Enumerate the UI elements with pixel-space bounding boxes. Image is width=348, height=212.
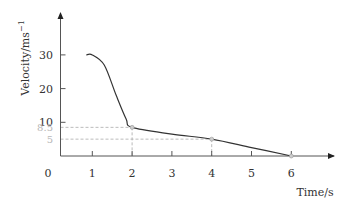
velocity-time-chart: 12345610203008.55 Time/s Velocity/ms−1 xyxy=(0,0,348,212)
reference-value-label: 8.5 xyxy=(37,122,53,133)
reference-point xyxy=(210,137,214,141)
y-axis-title: Velocity/ms−1 xyxy=(17,20,32,96)
velocity-curve xyxy=(86,54,291,156)
x-tick-label: 2 xyxy=(129,167,136,180)
axes xyxy=(61,13,335,156)
x-tick-label: 3 xyxy=(168,167,175,180)
tick-labels: 12345610203008.55 xyxy=(37,49,295,180)
tick-marks xyxy=(61,55,292,156)
origin-label: 0 xyxy=(45,167,52,180)
y-tick-label: 20 xyxy=(39,83,53,96)
x-axis-title: Time/s xyxy=(296,186,334,199)
y-tick-label: 30 xyxy=(39,49,53,62)
reference-point xyxy=(289,154,293,158)
x-tick-label: 5 xyxy=(248,167,255,180)
reference-lines xyxy=(61,127,212,156)
x-tick-label: 1 xyxy=(89,167,96,180)
reference-value-label: 5 xyxy=(47,134,53,145)
reference-point xyxy=(130,125,134,129)
x-tick-label: 6 xyxy=(288,167,295,180)
x-tick-label: 4 xyxy=(208,167,215,180)
